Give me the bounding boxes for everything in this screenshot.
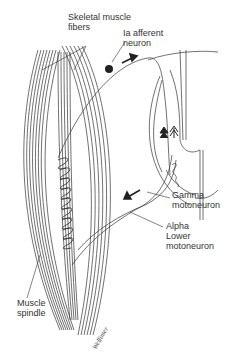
reflex-diagram: Wellimer Skeletal muscle fibers Ia affer… [0, 0, 230, 362]
label-ia-afferent-neuron: Ia afferent neuron [123, 28, 163, 48]
gamma-motoneuron-fiber [78, 160, 176, 250]
alpha-up-arrow-icon [160, 127, 168, 138]
efferent-arrow-icon [124, 190, 140, 199]
label-gamma-motoneuron: Gamma motoneuron [172, 190, 220, 210]
label-muscle-spindle: Muscle spindle [17, 298, 46, 318]
muscle-spindle-bundle [58, 52, 78, 320]
leader-gamma [147, 192, 170, 198]
label-skeletal-muscle-fibers: Skeletal muscle fibers [68, 12, 131, 32]
artist-signature: Wellimer [91, 325, 111, 351]
leader-alpha [130, 212, 163, 227]
gamma-up-arrow-icon [170, 126, 178, 138]
ia-afferent-cell-body [105, 65, 113, 73]
label-alpha-lower-motoneuron: Alpha Lower motoneuron [166, 221, 214, 251]
leader-spindle [27, 255, 40, 298]
alpha-motoneuron-fiber [72, 155, 172, 265]
